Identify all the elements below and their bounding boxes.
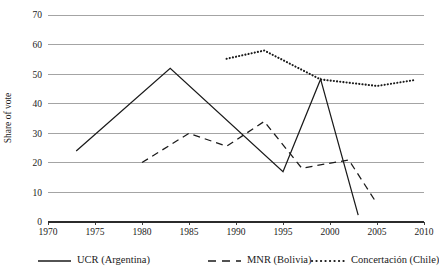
series-line-ucr-argentina <box>76 68 358 215</box>
x-tick-label: 1985 <box>180 227 199 237</box>
gridlines <box>48 15 424 222</box>
x-tick-label: 1995 <box>274 227 293 237</box>
y-axis-title: Share of vote <box>3 93 13 144</box>
y-tick-label: 30 <box>33 129 43 139</box>
line-chart: 010203040506070 197019751980198519901995… <box>0 0 439 274</box>
y-tick-label: 70 <box>33 10 43 20</box>
chart-container: 010203040506070 197019751980198519901995… <box>0 0 439 274</box>
data-series-group <box>76 50 414 215</box>
legend-label: UCR (Argentina) <box>77 254 151 266</box>
x-tick-label: 1970 <box>39 227 58 237</box>
x-tick-label: 2005 <box>368 227 387 237</box>
x-axis-tick-labels: 197019751980198519901995200020052010 <box>39 227 434 237</box>
x-tick-label: 1975 <box>86 227 105 237</box>
legend-label: Concertación (Chile) <box>351 254 439 266</box>
y-tick-label: 40 <box>33 99 43 109</box>
y-tick-label: 50 <box>33 70 43 80</box>
x-tick-label: 1990 <box>227 227 246 237</box>
y-tick-label: 0 <box>37 217 42 227</box>
y-axis-tick-labels: 010203040506070 <box>33 10 43 227</box>
chart-legend: UCR (Argentina)MNR (Bolivia)Concertación… <box>38 254 439 266</box>
x-tick-label: 2010 <box>415 227 434 237</box>
y-tick-label: 10 <box>33 188 43 198</box>
x-tick-label: 2000 <box>321 227 340 237</box>
y-tick-label: 20 <box>33 158 43 168</box>
x-tick-label: 1980 <box>133 227 152 237</box>
legend-label: MNR (Bolivia) <box>247 254 312 266</box>
y-tick-label: 60 <box>33 40 43 50</box>
